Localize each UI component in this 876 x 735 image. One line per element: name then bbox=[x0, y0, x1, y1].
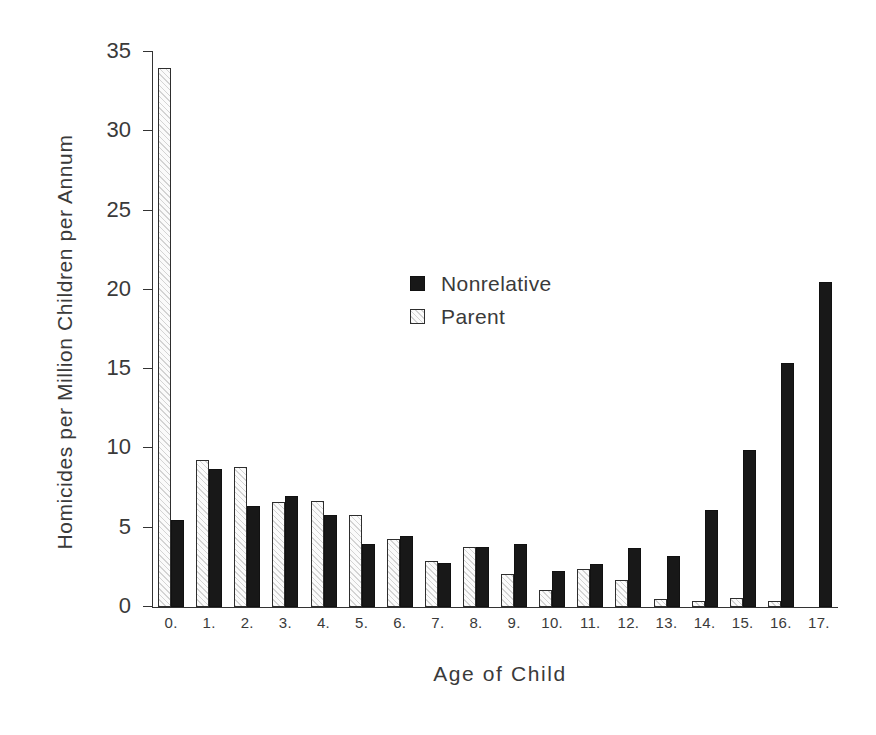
bar-nonrelative bbox=[705, 510, 718, 607]
bar-parent bbox=[615, 580, 628, 607]
y-axis-tick-label: 25 bbox=[107, 197, 131, 223]
legend-item-nonrelative: Nonrelative bbox=[410, 267, 552, 300]
x-axis-tick-label: 14. bbox=[685, 614, 725, 631]
x-axis-line bbox=[152, 607, 838, 608]
x-axis-tick-label: 3. bbox=[265, 614, 305, 631]
bar-parent bbox=[654, 599, 667, 607]
bar-group bbox=[234, 52, 260, 607]
bar-parent bbox=[577, 569, 590, 607]
bar-nonrelative bbox=[476, 547, 489, 607]
legend-swatch-parent bbox=[410, 309, 425, 324]
bar-parent bbox=[692, 601, 705, 607]
bar-group bbox=[577, 52, 603, 607]
legend-label-nonrelative: Nonrelative bbox=[441, 272, 552, 296]
bar-nonrelative bbox=[438, 563, 451, 607]
x-axis-tick-label: 1. bbox=[189, 614, 229, 631]
chart-figure: Homicides per Million Children per Annum… bbox=[0, 0, 876, 735]
bar-nonrelative bbox=[324, 515, 337, 607]
bar-group bbox=[806, 52, 832, 607]
y-axis-tick-label: 10 bbox=[107, 434, 131, 460]
bar-nonrelative bbox=[590, 564, 603, 607]
bar-parent bbox=[539, 590, 552, 607]
bar-group bbox=[387, 52, 413, 607]
chart-legend: Nonrelative Parent bbox=[410, 267, 552, 333]
bar-group bbox=[768, 52, 794, 607]
x-axis-tick-label: 4. bbox=[304, 614, 344, 631]
bar-parent bbox=[349, 515, 362, 607]
bar-nonrelative bbox=[667, 556, 680, 607]
bar-nonrelative bbox=[552, 571, 565, 607]
bar-parent bbox=[272, 502, 285, 607]
x-axis-tick-label: 7. bbox=[418, 614, 458, 631]
y-axis-tick-label: 20 bbox=[107, 276, 131, 302]
bar-group bbox=[654, 52, 680, 607]
y-axis-tick-label: 0 bbox=[119, 593, 131, 619]
bar-parent bbox=[196, 460, 209, 607]
legend-item-parent: Parent bbox=[410, 300, 552, 333]
bar-group bbox=[692, 52, 718, 607]
x-axis-tick-label: 13. bbox=[647, 614, 687, 631]
bar-parent bbox=[311, 501, 324, 607]
x-axis-title: Age of Child bbox=[140, 662, 860, 686]
bar-nonrelative bbox=[171, 520, 184, 607]
bar-group bbox=[158, 52, 184, 607]
x-axis-tick-label: 5. bbox=[342, 614, 382, 631]
bar-parent bbox=[234, 467, 247, 607]
x-axis-tick-label: 16. bbox=[761, 614, 801, 631]
x-axis-tick-label: 15. bbox=[723, 614, 763, 631]
bar-group bbox=[730, 52, 756, 607]
y-axis-tick-label: 35 bbox=[107, 38, 131, 64]
bar-parent bbox=[463, 547, 476, 607]
y-axis-tick-label: 15 bbox=[107, 355, 131, 381]
bar-parent bbox=[730, 598, 743, 608]
y-axis-tick-label: 5 bbox=[119, 514, 131, 540]
x-axis-tick-label: 10. bbox=[532, 614, 572, 631]
x-axis-tick-label: 0. bbox=[151, 614, 191, 631]
x-axis-tick-label: 12. bbox=[608, 614, 648, 631]
bar-nonrelative bbox=[781, 363, 794, 607]
y-axis-tick-label: 30 bbox=[107, 117, 131, 143]
x-axis-tick-label: 8. bbox=[456, 614, 496, 631]
legend-label-parent: Parent bbox=[441, 305, 505, 329]
y-axis-title: Homicides per Million Children per Annum bbox=[53, 62, 77, 622]
x-axis-ticks: 0.1.2.3.4.5.6.7.8.9.10.11.12.13.14.15.16… bbox=[152, 614, 838, 644]
x-axis-tick-label: 2. bbox=[227, 614, 267, 631]
bar-parent bbox=[768, 601, 781, 607]
x-axis-tick-label: 9. bbox=[494, 614, 534, 631]
bar-group bbox=[196, 52, 222, 607]
x-axis-tick-label: 11. bbox=[570, 614, 610, 631]
bar-group bbox=[349, 52, 375, 607]
x-axis-tick-label: 6. bbox=[380, 614, 420, 631]
bar-nonrelative bbox=[285, 496, 298, 607]
bar-parent bbox=[387, 539, 400, 607]
bar-nonrelative bbox=[209, 469, 222, 607]
x-axis-tick-label: 17. bbox=[799, 614, 839, 631]
bar-nonrelative bbox=[247, 506, 260, 607]
bar-group bbox=[311, 52, 337, 607]
bar-nonrelative bbox=[819, 282, 832, 607]
bar-nonrelative bbox=[628, 548, 641, 607]
bar-nonrelative bbox=[362, 544, 375, 607]
bar-nonrelative bbox=[743, 450, 756, 607]
bar-parent bbox=[158, 68, 171, 607]
legend-swatch-nonrelative bbox=[410, 276, 425, 291]
bar-parent bbox=[501, 574, 514, 607]
bar-group bbox=[272, 52, 298, 607]
bar-group bbox=[615, 52, 641, 607]
bar-nonrelative bbox=[514, 544, 527, 607]
bar-nonrelative bbox=[400, 536, 413, 607]
bar-parent bbox=[425, 561, 438, 607]
